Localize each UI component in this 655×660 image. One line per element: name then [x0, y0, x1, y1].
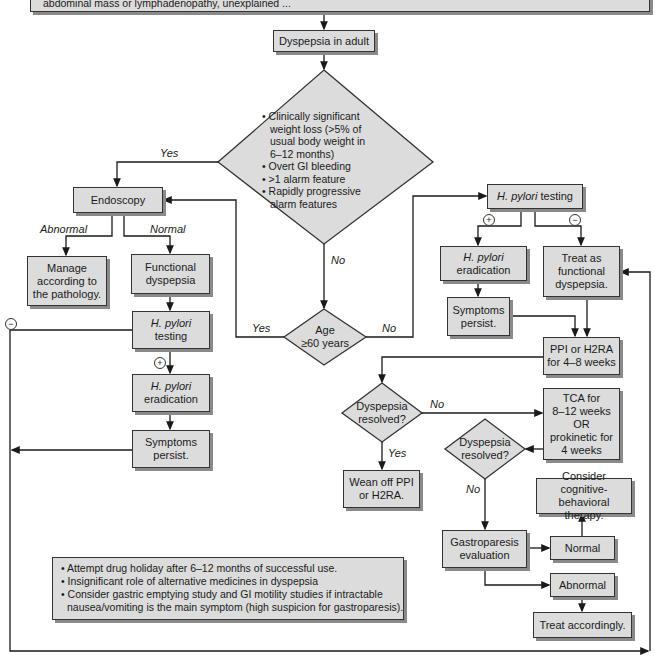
- node-label: PPI or H2RA: [550, 343, 613, 356]
- node-normal: Normal: [550, 536, 615, 560]
- node-label: Endoscopy: [91, 194, 145, 207]
- node-label: TCA for: [563, 392, 600, 405]
- edge-label-yes-alarm: Yes: [160, 147, 178, 159]
- node-label: Dyspepsia in adult: [279, 35, 369, 48]
- node-treat-as-functional: Treat as functional dyspepsia.: [543, 246, 620, 297]
- node-label: Age: [290, 324, 360, 337]
- node-label: Abnormal: [559, 579, 606, 592]
- resolved-diamond-1-text: Dyspepsia resolved?: [347, 400, 417, 426]
- edge-label-no-age: No: [382, 322, 396, 334]
- alarm-item: weight loss (>5% of: [262, 123, 402, 136]
- edge-label-abnormal: Abnormal: [40, 223, 87, 235]
- node-hpylori-eradication-left: H. pylori eradication: [132, 374, 210, 412]
- node-endoscopy: Endoscopy: [73, 187, 163, 213]
- node-hpylori-eradication-right: H. pylori eradication: [440, 246, 527, 281]
- node-symptoms-persist-right: Symptoms persist.: [447, 297, 510, 336]
- node-tca-prokinetic: TCA for 8–12 weeks OR prokinetic for 4 w…: [543, 388, 620, 460]
- node-label: OR: [573, 418, 590, 431]
- node-treat-accordingly: Treat accordingly.: [533, 612, 632, 638]
- node-label: Consider cognitive-: [540, 470, 628, 496]
- alarm-features-banner: abdominal mass or lymphadenopathy, unexp…: [30, 0, 650, 12]
- edge-label-no-alarm: No: [331, 254, 345, 266]
- node-label: ≥60 years: [290, 337, 360, 350]
- node-label: 8–12 weeks: [552, 405, 611, 418]
- node-label-italic: H. pylori: [463, 251, 503, 264]
- node-label: Treat accordingly.: [539, 619, 625, 632]
- node-label: Wean off PPI: [349, 476, 413, 489]
- edge-label-yes-age: Yes: [252, 322, 270, 334]
- edge-label-normal: Normal: [150, 223, 185, 235]
- node-label: Gastroparesis: [450, 536, 518, 549]
- edge-label-yes-resolved1: Yes: [388, 447, 406, 459]
- alarm-item: • Rapidly progressive: [262, 185, 402, 198]
- node-label: 4 weeks: [561, 444, 601, 457]
- node-label: persist.: [153, 449, 188, 462]
- alarm-item: usual body weight in: [262, 135, 402, 148]
- node-label: Normal: [565, 542, 600, 555]
- minus-icon: −: [5, 318, 17, 330]
- node-label: or H2RA.: [359, 489, 404, 502]
- node-wean-off-ppi: Wean off PPI or H2RA.: [343, 470, 420, 508]
- node-label: eradication: [144, 393, 198, 406]
- node-label: Functional: [145, 261, 196, 274]
- node-label: resolved?: [450, 449, 520, 462]
- node-label-italic: H. pylori: [151, 317, 191, 330]
- node-label: dyspepsia: [146, 274, 196, 287]
- node-gastroparesis-evaluation: Gastroparesis evaluation: [442, 530, 527, 568]
- node-label: testing: [537, 190, 572, 202]
- node-label: Symptoms: [453, 304, 505, 317]
- node-abnormal: Abnormal: [550, 573, 615, 597]
- node-label: eradication: [457, 264, 511, 277]
- node-label: evaluation: [459, 549, 509, 562]
- node-label-italic: H. pylori: [151, 380, 191, 393]
- node-manage-pathology: Manage according to the pathology.: [27, 256, 107, 306]
- minus-icon: −: [569, 214, 581, 226]
- alarm-item: • Overt GI bleeding: [262, 160, 402, 173]
- alarm-item: alarm features: [262, 198, 402, 211]
- alarm-item: 6–12 months): [262, 148, 402, 161]
- plus-icon: +: [483, 214, 495, 226]
- node-label: the pathology.: [33, 288, 101, 301]
- node-symptoms-persist-left: Symptoms persist.: [132, 430, 210, 468]
- node-label: functional: [558, 265, 605, 278]
- node-label: for 4–8 weeks: [547, 356, 615, 369]
- node-hpylori-testing-left: H. pylori testing: [132, 311, 210, 349]
- note-item: • Consider gastric emptying study and GI…: [61, 588, 395, 601]
- node-dyspepsia-in-adult: Dyspepsia in adult: [273, 30, 375, 52]
- note-item: • Insignificant role of alternative medi…: [61, 575, 395, 588]
- notes-box: • Attempt drug holiday after 6–12 months…: [52, 557, 404, 620]
- plus-icon: +: [154, 357, 166, 369]
- node-ppi-h2ra: PPI or H2RA for 4–8 weeks: [543, 337, 620, 375]
- node-label: Dyspepsia: [450, 436, 520, 449]
- edge-label-no-resolved2: No: [466, 483, 480, 495]
- node-functional-dyspepsia: Functional dyspepsia: [131, 254, 210, 294]
- node-label: resolved?: [347, 413, 417, 426]
- node-label: behavioral therapy.: [540, 496, 628, 522]
- alarm-item: • >1 alarm feature: [262, 173, 402, 186]
- node-label: testing: [155, 330, 187, 343]
- node-consider-cbt: Consider cognitive- behavioral therapy.: [536, 478, 632, 514]
- node-label: Manage: [47, 262, 87, 275]
- node-label: Dyspepsia: [347, 400, 417, 413]
- note-item: • Attempt drug holiday after 6–12 months…: [61, 562, 395, 575]
- node-label: dyspepsia.: [555, 278, 608, 291]
- node-label: H. pylori testing: [497, 190, 573, 203]
- node-label-italic: H. pylori: [497, 190, 537, 202]
- age-diamond-text: Age ≥60 years: [290, 324, 360, 350]
- edge-label-no-resolved1: No: [430, 398, 444, 410]
- node-label: according to: [37, 275, 97, 288]
- node-label: Treat as: [562, 252, 602, 265]
- node-label: prokinetic for: [550, 431, 613, 444]
- node-hpylori-testing-right: H. pylori testing: [487, 184, 583, 209]
- node-label: Symptoms: [145, 436, 197, 449]
- note-item: nausea/vomiting is the main symptom (hig…: [61, 601, 395, 614]
- alarm-features-diamond-text: • Clinically significant weight loss (>5…: [262, 110, 402, 210]
- alarm-item: • Clinically significant: [262, 110, 402, 123]
- node-label: persist.: [461, 317, 496, 330]
- resolved-diamond-2-text: Dyspepsia resolved?: [450, 436, 520, 462]
